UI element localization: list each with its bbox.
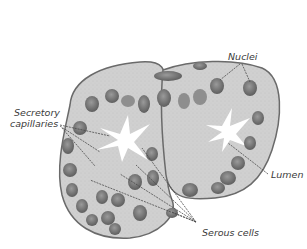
label-serous-cells: Serous cells [202, 228, 259, 238]
nucleus [193, 62, 207, 70]
label-lumen: Lumen [271, 170, 303, 180]
histology-diagram: Nuclei Secretory capillaries Lumen Serou… [0, 0, 307, 249]
label-secretory-capillaries-line1: Secretory [14, 108, 60, 118]
label-nuclei: Nuclei [228, 52, 257, 62]
label-secretory-capillaries-line2: capillaries [10, 119, 58, 129]
nucleus [154, 71, 182, 81]
